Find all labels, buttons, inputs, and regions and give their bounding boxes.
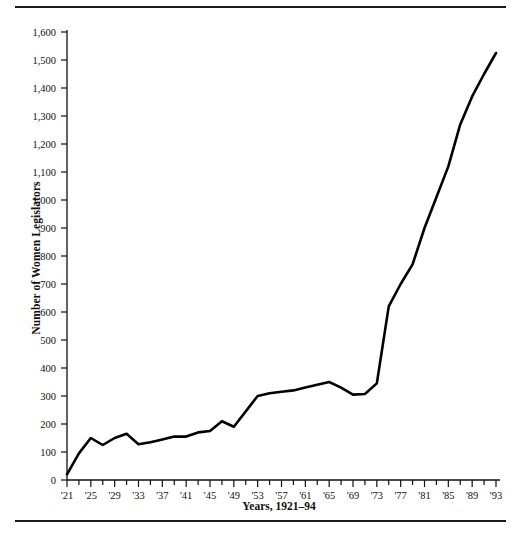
series-line-women-legislators bbox=[67, 53, 496, 474]
chart-plot-area: 01002003004005006007008009001,0001,1001,… bbox=[0, 0, 521, 537]
data-series bbox=[67, 53, 496, 474]
y-axis-tick-label: 700 bbox=[40, 279, 56, 290]
y-axis-tick-label: 1,200 bbox=[32, 139, 56, 150]
y-axis-tick-label: 900 bbox=[40, 223, 56, 234]
y-axis-tick-label: 800 bbox=[40, 251, 56, 262]
y-axis-tick-label: 600 bbox=[40, 307, 56, 318]
x-axis-ticks bbox=[67, 480, 496, 487]
y-axis-tick-label: 1,400 bbox=[32, 83, 56, 94]
x-axis-tick-label: '93 bbox=[490, 490, 502, 501]
line-chart: 01002003004005006007008009001,0001,1001,… bbox=[0, 0, 521, 537]
y-axis-tick-label: 1,300 bbox=[32, 111, 56, 122]
y-axis-title: Number of Women Legislators bbox=[30, 153, 42, 363]
y-axis-tick-label: 400 bbox=[40, 363, 56, 374]
y-axis-tick-label: 1,600 bbox=[32, 27, 56, 38]
x-axis: '21'25'29'33'37'41'45'49'53'57'61'65'69'… bbox=[61, 480, 502, 501]
y-axis-tick-label: 300 bbox=[40, 391, 56, 402]
figure-page: 01002003004005006007008009001,0001,1001,… bbox=[0, 0, 521, 537]
x-axis-title: Years, 1921–94 bbox=[67, 500, 491, 512]
y-axis-tick-label: 500 bbox=[40, 335, 56, 346]
y-axis-tick-label: 1,500 bbox=[32, 55, 56, 66]
y-axis-tick-label: 100 bbox=[40, 447, 56, 458]
y-axis-ticks bbox=[61, 32, 67, 480]
y-axis-tick-label: 200 bbox=[40, 419, 56, 430]
y-axis-tick-label: 0 bbox=[51, 475, 56, 486]
